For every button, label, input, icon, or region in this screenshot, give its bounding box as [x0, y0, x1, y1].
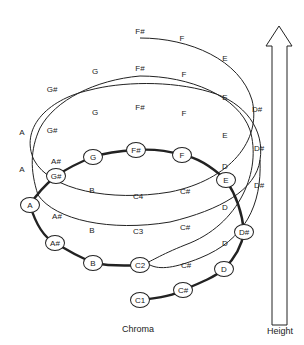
coil-note-label: F — [180, 34, 185, 43]
note-node: E — [216, 172, 236, 188]
coil-note-label: D# — [254, 144, 264, 153]
note-node: F# — [126, 142, 146, 158]
note-node: B — [83, 255, 103, 271]
pitch-helix-diagram: C#DC3C#DD#BA#C4C#BDD#A#AEG#GF#FD#AEG#GF#… — [0, 0, 304, 345]
note-node: G — [83, 149, 103, 165]
coil-note-label: F — [182, 109, 187, 118]
coil-note-label: D — [222, 239, 228, 248]
coil-note-label: G# — [47, 85, 58, 94]
coil-note-label: E — [222, 54, 227, 63]
note-node: F — [172, 147, 192, 163]
coil-note-label: G — [92, 67, 98, 76]
note-node: G# — [46, 168, 66, 184]
note-node: C2 — [130, 257, 150, 273]
coil-note-label: D — [222, 203, 228, 212]
coil-note-label: C4 — [133, 192, 143, 201]
coil-note-label: D — [222, 162, 228, 171]
coil-note-label: F# — [135, 27, 144, 36]
note-node: C# — [173, 282, 193, 298]
coil-note-label: C# — [181, 261, 191, 270]
chroma-caption: Chroma — [122, 324, 154, 334]
note-node: D# — [234, 224, 254, 240]
coil-note-label: G# — [47, 126, 58, 135]
coil-note-label: F# — [135, 103, 144, 112]
note-node: D — [214, 261, 234, 277]
coil-note-label: D# — [252, 105, 262, 114]
coil-note-label: C# — [180, 187, 190, 196]
coil-note-label: A# — [52, 212, 62, 221]
coil-note-label: F# — [135, 64, 144, 73]
coil-note-label: A# — [51, 157, 61, 166]
coil-note-label: A — [19, 165, 24, 174]
note-node: C1 — [130, 292, 150, 308]
height-caption: Height — [267, 326, 293, 336]
coil-note-label: A — [19, 128, 24, 137]
coil-note-label: B — [89, 226, 94, 235]
coil-note-label: E — [222, 93, 227, 102]
coil-note-label: C3 — [133, 227, 143, 236]
coil-note-label: F — [182, 70, 187, 79]
coil-note-label: B — [89, 186, 94, 195]
coil-note-label: E — [222, 131, 227, 140]
note-node: A — [20, 197, 40, 213]
coil-note-label: D# — [254, 181, 264, 190]
coil-note-label: C# — [180, 223, 190, 232]
coil-note-label: G — [92, 108, 98, 117]
note-node: A# — [45, 235, 65, 251]
